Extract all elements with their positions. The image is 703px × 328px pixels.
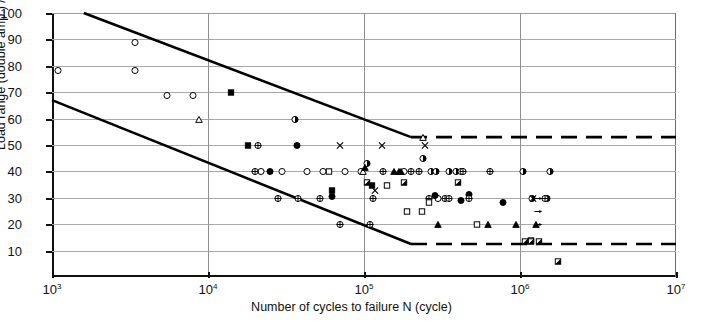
y-tick-mark xyxy=(46,92,52,94)
y-tick-mark xyxy=(46,224,52,226)
data-point-half-square xyxy=(535,232,544,250)
x-axis-title: Number of cycles to failure N (cycle) xyxy=(0,300,703,314)
x-tick-label: 105 xyxy=(355,282,374,297)
x-tick-mark xyxy=(364,272,366,278)
data-point-crossed-circle xyxy=(273,189,282,207)
data-point-filled-triangle xyxy=(483,215,492,233)
data-point-open-circle xyxy=(188,86,197,104)
y-tick-label: 80 xyxy=(0,58,22,73)
x-tick-mark xyxy=(676,272,678,278)
y-tick-mark xyxy=(46,66,52,68)
y-tick-mark xyxy=(46,13,52,15)
x-tick-mark xyxy=(520,272,522,278)
data-point-half-square xyxy=(553,252,562,270)
x-tick-label: 107 xyxy=(667,282,686,297)
data-point-half-filled-circle xyxy=(545,162,554,180)
plot-area xyxy=(52,13,676,277)
boundary-lines xyxy=(52,13,676,277)
x-tick-label: 106 xyxy=(511,282,530,297)
data-point-open-circle xyxy=(54,61,63,79)
y-axis-title: Load range (double amp.) / Breaking stre… xyxy=(0,0,8,150)
y-tick-label: 20 xyxy=(0,217,22,232)
data-point-x-mark xyxy=(377,136,386,154)
data-point-open-circle xyxy=(278,162,287,180)
data-point-filled-circle xyxy=(499,193,508,211)
data-point-filled-triangle xyxy=(396,162,405,180)
x-tick-label: 103 xyxy=(43,282,62,297)
y-tick-label: 50 xyxy=(0,138,22,153)
data-point-filled-triangle xyxy=(434,215,443,233)
data-point-filled-circle xyxy=(266,162,275,180)
data-point-open-square xyxy=(472,215,481,233)
y-tick-label: 10 xyxy=(0,243,22,258)
y-tick-label: 90 xyxy=(0,32,22,47)
data-point-filled-triangle xyxy=(511,215,520,233)
data-point-crossed-circle xyxy=(464,189,473,207)
data-point-crossed-circle xyxy=(254,136,263,154)
x-tick-label: 104 xyxy=(199,282,218,297)
data-point-crossed-circle xyxy=(250,162,259,180)
data-point-filled-square xyxy=(226,83,235,101)
data-point-crossed-circle xyxy=(315,189,324,207)
y-tick-mark xyxy=(46,39,52,41)
data-point-filled-circle xyxy=(292,136,301,154)
data-point-crossed-circle xyxy=(335,215,344,233)
y-tick-mark xyxy=(46,145,52,147)
data-point-half-filled-circle xyxy=(290,110,299,128)
data-point-runout-arrow xyxy=(533,215,542,233)
chart-figure: Load range (double amp.) / Breaking stre… xyxy=(0,0,703,328)
data-point-half-filled-circle xyxy=(519,162,528,180)
data-point-x-mark xyxy=(335,136,344,154)
y-tick-label: 30 xyxy=(0,190,22,205)
data-point-half-square xyxy=(521,232,530,250)
data-point-open-circle xyxy=(341,162,350,180)
data-point-open-circle xyxy=(130,33,139,51)
y-tick-mark xyxy=(46,251,52,253)
y-tick-label: 40 xyxy=(0,164,22,179)
data-point-open-circle xyxy=(163,86,172,104)
data-point-filled-triangle xyxy=(361,158,370,176)
data-point-x-mark xyxy=(420,136,429,154)
data-point-crossed-circle xyxy=(366,215,375,233)
data-point-open-circle xyxy=(302,162,311,180)
data-point-open-square xyxy=(325,162,334,180)
data-point-crossed-circle xyxy=(444,189,453,207)
x-tick-mark xyxy=(208,272,210,278)
data-point-half-square xyxy=(453,173,462,191)
data-point-open-circle xyxy=(130,61,139,79)
data-point-open-square xyxy=(403,202,412,220)
data-point-crossed-circle xyxy=(485,162,494,180)
y-tick-label: 70 xyxy=(0,85,22,100)
data-point-open-square xyxy=(424,193,433,211)
data-point-crossed-circle xyxy=(294,189,303,207)
x-tick-mark xyxy=(52,272,54,278)
data-point-half-filled-circle xyxy=(432,162,441,180)
y-tick-mark xyxy=(46,198,52,200)
y-tick-label: 60 xyxy=(0,111,22,126)
data-point-filled-square xyxy=(327,181,336,199)
y-tick-mark xyxy=(46,119,52,121)
data-point-open-triangle xyxy=(194,110,203,128)
y-tick-mark xyxy=(46,171,52,173)
data-point-crossed-circle xyxy=(414,162,423,180)
y-tick-label: 100 xyxy=(0,6,22,21)
data-point-x-mark xyxy=(371,181,380,199)
data-point-filled-square xyxy=(243,136,252,154)
